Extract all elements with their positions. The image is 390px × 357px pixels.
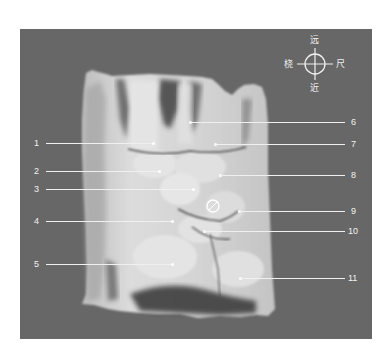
specimen-photo-panel: 远 近 桡 尺 1 2 3 4 5 6 7 8 9 10 11 [20,29,372,339]
leader-line-10 [204,231,345,232]
orientation-compass: 远 近 桡 尺 [272,31,362,101]
label-5: 5 [34,259,39,269]
label-10: 10 [348,226,358,236]
leader-line-3 [46,189,194,190]
leader-line-5 [46,264,172,265]
leader-line-8 [220,175,345,176]
label-3: 3 [34,184,39,194]
leader-line-1 [46,143,154,144]
label-4: 4 [34,216,39,226]
leader-line-6 [190,122,345,123]
label-1: 1 [34,138,39,148]
leader-dot-4 [171,220,174,223]
leader-line-4 [46,221,172,222]
label-2: 2 [34,166,39,176]
label-11: 11 [348,273,357,283]
leader-dot-2 [158,170,161,173]
label-9: 9 [351,206,356,216]
label-8: 8 [351,170,356,180]
leader-dot-3 [192,188,195,191]
direction-proximal-label: 近 [310,83,319,93]
leader-line-11 [240,278,345,279]
leader-dot-5 [171,263,174,266]
direction-distal-label: 远 [310,35,319,45]
leader-line-9 [239,211,345,212]
direction-ulnar-label: 尺 [336,59,345,69]
direction-radial-label: 桡 [284,59,293,69]
label-7: 7 [351,139,356,149]
leader-dot-1 [152,142,155,145]
leader-line-2 [46,171,160,172]
leader-line-7 [215,144,345,145]
label-6: 6 [351,117,356,127]
